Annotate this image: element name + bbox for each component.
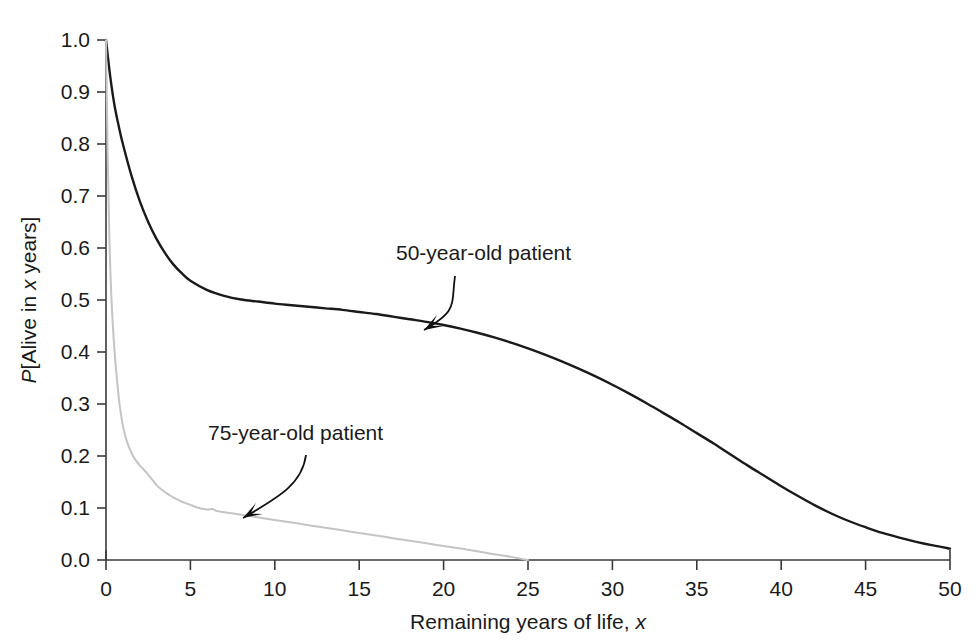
chart-page: 0.00.10.20.30.40.50.60.70.80.91.0 051015… [0, 0, 979, 644]
x-tick-label-45: 45 [854, 577, 877, 600]
y-tick-label-0.0: 0.0 [61, 548, 90, 571]
series-group [106, 40, 950, 560]
y-axis-title-tail: years] [17, 217, 40, 280]
y-tick-label-0.1: 0.1 [61, 496, 90, 519]
y-tick-label-1.0: 1.0 [61, 28, 90, 51]
x-tick-label-40: 40 [770, 577, 793, 600]
annot-50-label: 50-year-old patient [396, 241, 571, 264]
x-axis-title: Remaining years of life, x [410, 610, 647, 633]
series-line-75-year-old-patient [106, 40, 528, 560]
y-tick-label-0.4: 0.4 [61, 340, 91, 363]
y-tick-label-0.9: 0.9 [61, 80, 90, 103]
y-tick-label-0.3: 0.3 [61, 392, 90, 415]
x-tick-label-30: 30 [601, 577, 624, 600]
y-tick-label-0.5: 0.5 [61, 288, 90, 311]
y-tick-label-0.8: 0.8 [61, 132, 90, 155]
svg-text:Remaining years of life, x: Remaining years of life, x [410, 610, 647, 633]
annot-75-label: 75-year-old patient [208, 421, 383, 444]
survival-probability-chart: 0.00.10.20.30.40.50.60.70.80.91.0 051015… [0, 0, 979, 644]
x-tick-label-25: 25 [516, 577, 539, 600]
svg-text:P[Alive in x years]: P[Alive in x years] [17, 217, 40, 384]
annotations-group: 50-year-old patient75-year-old patient [208, 241, 571, 518]
x-axis-ticks: 05101520253035404550 [100, 550, 962, 600]
y-tick-label-0.6: 0.6 [61, 236, 90, 259]
annot-75-arrowhead-icon [243, 503, 263, 518]
x-tick-label-35: 35 [685, 577, 708, 600]
y-tick-label-0.2: 0.2 [61, 444, 90, 467]
y-axis-title: P[Alive in x years] [17, 217, 40, 384]
x-tick-label-5: 5 [185, 577, 197, 600]
series-line-50-year-old-patient [106, 40, 950, 549]
axes [106, 40, 950, 560]
y-axis-title-p: P [17, 369, 40, 383]
x-tick-label-15: 15 [348, 577, 371, 600]
x-tick-label-20: 20 [432, 577, 455, 600]
y-axis-ticks: 0.00.10.20.30.40.50.60.70.80.91.0 [61, 28, 106, 571]
x-axis-title-plain: Remaining years of life, [410, 610, 629, 633]
y-axis-title-open: [Alive in [17, 290, 40, 369]
x-axis-title-x: x [634, 610, 647, 633]
x-tick-label-0: 0 [100, 577, 112, 600]
x-tick-label-10: 10 [263, 577, 286, 600]
y-tick-label-0.7: 0.7 [61, 184, 90, 207]
x-tick-label-50: 50 [938, 577, 961, 600]
